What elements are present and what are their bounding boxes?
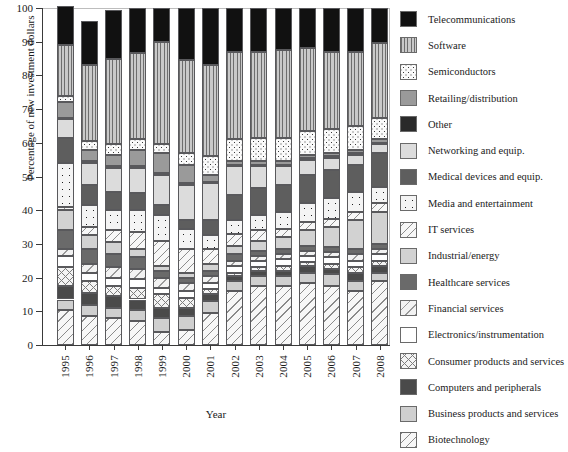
bar-segment[interactable] xyxy=(323,153,340,156)
bar-segment[interactable] xyxy=(57,119,74,138)
bar-segment[interactable] xyxy=(275,212,292,229)
bar-segment[interactable] xyxy=(347,261,364,268)
bar-2006[interactable] xyxy=(323,8,340,345)
bar-segment[interactable] xyxy=(129,168,146,193)
bar-2003[interactable] xyxy=(250,8,267,345)
bar-segment[interactable] xyxy=(250,276,267,286)
bar-segment[interactable] xyxy=(153,153,170,173)
bar-segment[interactable] xyxy=(299,175,316,204)
bar-segment[interactable] xyxy=(57,45,74,96)
bar-segment[interactable] xyxy=(250,286,267,345)
bar-segment[interactable] xyxy=(105,242,122,254)
bar-segment[interactable] xyxy=(371,261,388,266)
bar-segment[interactable] xyxy=(250,215,267,230)
bar-segment[interactable] xyxy=(347,126,364,150)
bar-segment[interactable] xyxy=(129,8,146,53)
bar-segment[interactable] xyxy=(57,300,74,310)
bar-segment[interactable] xyxy=(105,254,122,267)
bar-segment[interactable] xyxy=(371,118,388,140)
bar-segment[interactable] xyxy=(299,158,316,160)
bar-segment[interactable] xyxy=(81,273,98,281)
bar-segment[interactable] xyxy=(226,139,243,161)
bar-segment[interactable] xyxy=(202,175,219,182)
bar-segment[interactable] xyxy=(81,281,98,293)
bar-segment[interactable] xyxy=(226,234,243,246)
bar-segment[interactable] xyxy=(275,166,292,185)
bar-segment[interactable] xyxy=(250,165,267,167)
bar-segment[interactable] xyxy=(129,249,146,257)
bar-segment[interactable] xyxy=(153,288,170,295)
bar-segment[interactable] xyxy=(129,279,146,287)
bar-segment[interactable] xyxy=(275,165,292,167)
bar-segment[interactable] xyxy=(371,203,388,211)
bar-segment[interactable] xyxy=(250,256,267,261)
bar-segment[interactable] xyxy=(129,232,146,249)
bar-segment[interactable] xyxy=(323,198,340,218)
bar-segment[interactable] xyxy=(105,318,122,345)
bar-segment[interactable] xyxy=(202,249,219,264)
bar-segment[interactable] xyxy=(323,274,340,286)
bar-segment[interactable] xyxy=(226,52,243,140)
bar-segment[interactable] xyxy=(323,257,340,264)
bar-segment[interactable] xyxy=(153,308,170,318)
bar-segment[interactable] xyxy=(275,276,292,286)
bar-segment[interactable] xyxy=(105,168,122,192)
bar-segment[interactable] xyxy=(202,313,219,345)
bar-segment[interactable] xyxy=(129,166,146,168)
bar-segment[interactable] xyxy=(129,269,146,279)
bar-segment[interactable] xyxy=(129,288,146,300)
legend-item-health[interactable]: Healthcare services xyxy=(400,269,566,295)
legend-item-medical[interactable]: Medical devices and equip. xyxy=(400,164,566,190)
bar-segment[interactable] xyxy=(105,210,122,230)
bar-segment[interactable] xyxy=(129,139,146,149)
bar-segment[interactable] xyxy=(250,271,267,276)
bar-segment[interactable] xyxy=(371,212,388,244)
bar-segment[interactable] xyxy=(81,235,98,248)
bar-segment[interactable] xyxy=(250,261,267,268)
bar-segment[interactable] xyxy=(347,153,364,155)
bar-segment[interactable] xyxy=(299,262,316,265)
bar-segment[interactable] xyxy=(153,175,170,205)
bar-segment[interactable] xyxy=(226,195,243,220)
bar-segment[interactable] xyxy=(129,210,146,232)
bar-segment[interactable] xyxy=(178,291,195,298)
bar-segment[interactable] xyxy=(81,161,98,163)
bar-segment[interactable] xyxy=(129,310,146,322)
bar-segment[interactable] xyxy=(347,254,364,261)
bar-segment[interactable] xyxy=(81,141,98,149)
bar-segment[interactable] xyxy=(226,220,243,233)
bar-segment[interactable] xyxy=(323,8,340,52)
bar-segment[interactable] xyxy=(57,138,74,163)
bar-segment[interactable] xyxy=(57,310,74,345)
bar-1995[interactable] xyxy=(57,8,74,345)
bar-segment[interactable] xyxy=(178,278,195,283)
bar-segment[interactable] xyxy=(105,10,122,59)
bar-segment[interactable] xyxy=(347,291,364,345)
bar-segment[interactable] xyxy=(202,182,219,184)
bar-segment[interactable] xyxy=(347,155,364,165)
bar-segment[interactable] xyxy=(129,321,146,345)
bar-segment[interactable] xyxy=(105,286,122,296)
bar-segment[interactable] xyxy=(81,249,98,264)
bar-1999[interactable] xyxy=(153,8,170,345)
bar-segment[interactable] xyxy=(250,188,267,215)
bar-segment[interactable] xyxy=(275,286,292,345)
bar-segment[interactable] xyxy=(347,212,364,220)
bar-segment[interactable] xyxy=(178,330,195,345)
bar-segment[interactable] xyxy=(275,8,292,50)
bar-segment[interactable] xyxy=(81,293,98,305)
bar-segment[interactable] xyxy=(323,252,340,257)
bar-segment[interactable] xyxy=(250,52,267,138)
bar-segment[interactable] xyxy=(178,165,195,184)
bar-segment[interactable] xyxy=(129,150,146,167)
bar-segment[interactable] xyxy=(105,166,122,168)
bar-segment[interactable] xyxy=(250,161,267,164)
bar-segment[interactable] xyxy=(105,59,122,145)
bar-segment[interactable] xyxy=(299,48,316,131)
bar-segment[interactable] xyxy=(57,230,74,249)
bar-segment[interactable] xyxy=(202,220,219,235)
bar-2007[interactable] xyxy=(347,8,364,345)
bar-segment[interactable] xyxy=(323,247,340,252)
bar-segment[interactable] xyxy=(202,283,219,290)
bar-segment[interactable] xyxy=(323,158,340,170)
